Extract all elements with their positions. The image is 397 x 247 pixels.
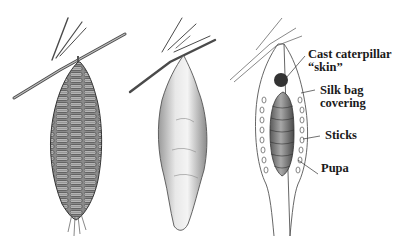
label-pupa: Pupa	[321, 162, 349, 175]
bagworm-illustration: Cast caterpillar “skin” Silk bag coverin…	[0, 0, 397, 247]
panel-bag-cutaway	[230, 18, 320, 236]
stick-bag	[50, 62, 101, 220]
label-silk-bag: Silk bag covering	[320, 84, 366, 110]
label-cast-skin: Cast caterpillar “skin”	[308, 48, 392, 74]
panel-bag-with-sticks	[14, 18, 125, 236]
pupa	[270, 92, 294, 176]
label-sticks: Sticks	[325, 129, 357, 142]
panel-bag-silk	[130, 18, 215, 230]
silk-bag	[158, 56, 207, 230]
cast-skin	[274, 73, 288, 87]
